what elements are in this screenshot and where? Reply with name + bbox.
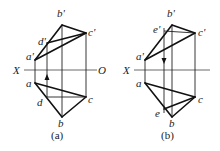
edge-a'c'-b [145, 33, 195, 60]
label-a-prime-a: a' [26, 50, 35, 62]
diagram-svg: X O b' c' d' a' a d c [0, 0, 220, 151]
label-c-prime-b: c' [198, 26, 206, 38]
edge-bc [62, 97, 86, 117]
edge-ac [35, 83, 86, 97]
label-a-b: a [136, 77, 142, 89]
label-c-prime-a: c' [88, 26, 96, 38]
label-b-b: b [169, 117, 175, 129]
axis-label-x-a: X [12, 64, 21, 76]
label-c-a: c [88, 93, 93, 105]
axis-label-x-b: X [122, 64, 131, 76]
axis-label-o-a: O [98, 64, 106, 76]
figure-a: X O b' c' d' a' a d c [12, 7, 106, 142]
edge-b'c' [62, 25, 86, 33]
label-d-a: d [37, 96, 43, 108]
caption-a: (a) [51, 129, 64, 142]
label-e-b: e [155, 107, 160, 119]
label-d-prime-a: d' [38, 35, 47, 47]
edge-bc-b [172, 97, 195, 117]
edge-ac-b [145, 83, 195, 97]
label-b-prime-b: b' [167, 7, 176, 19]
label-c-b: c [198, 93, 203, 105]
caption-b: (b) [161, 129, 174, 142]
projection-diagram: X O b' c' d' a' a d c [0, 0, 220, 151]
label-a-a: a [26, 77, 32, 89]
figure-b: X b' e' c' a' a e c b [122, 7, 210, 142]
edge-ec-b [164, 97, 195, 109]
arrow-up-icon [45, 74, 50, 80]
label-b-a: b [58, 117, 64, 129]
label-b-prime-a: b' [57, 7, 66, 19]
label-e-prime-b: e' [153, 23, 161, 35]
label-a-prime-b: a' [136, 50, 145, 62]
arrow-down-icon [162, 58, 167, 64]
